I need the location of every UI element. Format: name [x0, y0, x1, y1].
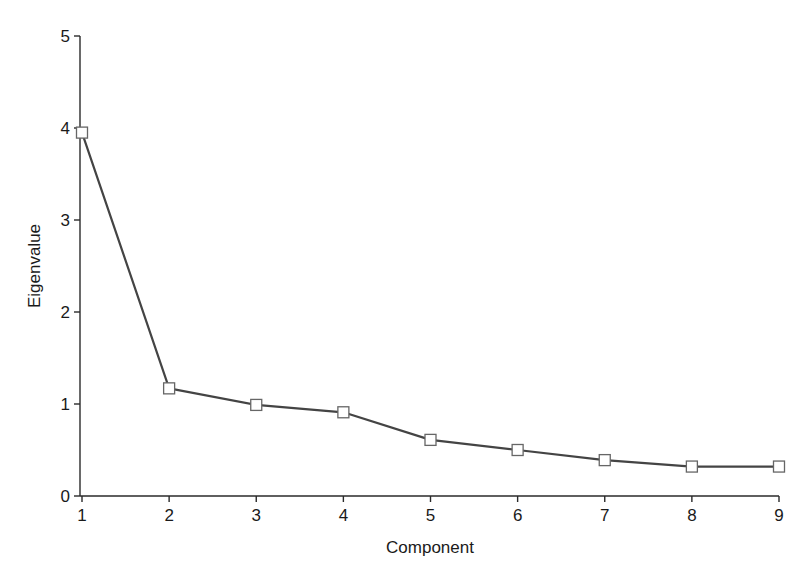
y-tick-label: 4 [61, 119, 70, 138]
open-square-marker-icon [686, 461, 697, 472]
x-tick-label: 9 [774, 506, 783, 525]
x-tick-label: 3 [252, 506, 261, 525]
open-square-marker-icon [512, 445, 523, 456]
scree-plot: 012345 123456789 Component Eigenvalue [0, 0, 805, 576]
open-square-marker-icon [774, 461, 785, 472]
x-axis-title: Component [386, 538, 474, 557]
open-square-marker-icon [338, 407, 349, 418]
open-square-marker-icon [425, 434, 436, 445]
open-square-marker-icon [77, 127, 88, 138]
y-tick-label: 0 [61, 487, 70, 506]
y-tick-label: 3 [61, 211, 70, 230]
x-tick-label: 4 [339, 506, 348, 525]
y-axis: 012345 [61, 27, 80, 506]
y-tick-label: 5 [61, 27, 70, 46]
y-tick-label: 1 [61, 395, 70, 414]
eigenvalue-series [77, 127, 785, 472]
series-line [82, 133, 779, 467]
y-tick-label: 2 [61, 303, 70, 322]
x-tick-label: 1 [77, 506, 86, 525]
x-axis: 123456789 [77, 496, 783, 525]
x-tick-label: 8 [687, 506, 696, 525]
x-tick-label: 2 [164, 506, 173, 525]
x-tick-label: 5 [426, 506, 435, 525]
x-tick-label: 6 [513, 506, 522, 525]
open-square-marker-icon [599, 455, 610, 466]
open-square-marker-icon [251, 399, 262, 410]
y-axis-title: Eigenvalue [25, 224, 44, 308]
x-tick-label: 7 [600, 506, 609, 525]
open-square-marker-icon [164, 383, 175, 394]
